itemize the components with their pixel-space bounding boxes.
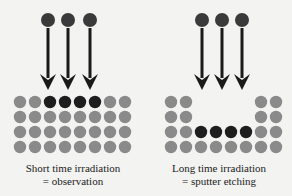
atom-icon bbox=[119, 111, 131, 123]
marked-atom-icon bbox=[240, 126, 252, 138]
atom-icon bbox=[14, 141, 26, 153]
left-atom-lattice bbox=[14, 96, 131, 153]
atom-icon bbox=[240, 141, 252, 153]
atom-icon bbox=[89, 126, 101, 138]
marked-atom-icon bbox=[44, 96, 56, 108]
ion-icon bbox=[61, 13, 75, 27]
ion-icon bbox=[235, 13, 249, 27]
ion-icon bbox=[41, 13, 55, 27]
marked-atom-icon bbox=[210, 126, 222, 138]
atom-icon bbox=[255, 96, 267, 108]
right-caption-line1: Long time irradiation bbox=[146, 162, 292, 175]
atom-icon bbox=[180, 96, 192, 108]
arrow-down-icon bbox=[40, 28, 56, 90]
right-atom-lattice bbox=[165, 96, 282, 153]
atom-icon bbox=[255, 126, 267, 138]
atom-icon bbox=[89, 111, 101, 123]
atom-icon bbox=[270, 141, 282, 153]
atom-icon bbox=[255, 111, 267, 123]
atom-icon bbox=[59, 126, 71, 138]
atom-icon bbox=[225, 141, 237, 153]
atom-icon bbox=[29, 96, 41, 108]
atom-icon bbox=[74, 126, 86, 138]
atom-icon bbox=[210, 141, 222, 153]
atom-icon bbox=[119, 141, 131, 153]
atom-icon bbox=[104, 141, 116, 153]
arrow-down-icon bbox=[234, 28, 250, 90]
atom-icon bbox=[195, 141, 207, 153]
atom-icon bbox=[119, 96, 131, 108]
atom-icon bbox=[180, 126, 192, 138]
atom-icon bbox=[44, 111, 56, 123]
atom-icon bbox=[270, 126, 282, 138]
atom-icon bbox=[29, 111, 41, 123]
atom-icon bbox=[14, 111, 26, 123]
atom-icon bbox=[89, 141, 101, 153]
marked-atom-icon bbox=[74, 96, 86, 108]
atom-icon bbox=[165, 96, 177, 108]
atom-icon bbox=[165, 126, 177, 138]
atom-icon bbox=[29, 126, 41, 138]
right-caption-line2: = sputter etching bbox=[146, 175, 292, 188]
atom-icon bbox=[165, 111, 177, 123]
atom-icon bbox=[119, 126, 131, 138]
left-caption: Short time irradiation = observation bbox=[0, 162, 146, 188]
right-caption: Long time irradiation = sputter etching bbox=[146, 162, 292, 188]
ion-icon bbox=[215, 13, 229, 27]
atom-icon bbox=[74, 141, 86, 153]
atom-icon bbox=[104, 111, 116, 123]
ion-icon bbox=[195, 13, 209, 27]
marked-atom-icon bbox=[195, 126, 207, 138]
atom-icon bbox=[180, 111, 192, 123]
marked-atom-icon bbox=[225, 126, 237, 138]
atom-icon bbox=[104, 126, 116, 138]
atom-icon bbox=[29, 141, 41, 153]
atom-icon bbox=[44, 126, 56, 138]
marked-atom-icon bbox=[59, 96, 71, 108]
atom-icon bbox=[270, 111, 282, 123]
arrow-down-icon bbox=[60, 28, 76, 90]
left-ion-beam bbox=[40, 13, 98, 90]
atom-icon bbox=[165, 141, 177, 153]
atom-icon bbox=[104, 96, 116, 108]
marked-atom-icon bbox=[89, 96, 101, 108]
left-caption-line1: Short time irradiation bbox=[0, 162, 146, 175]
atom-icon bbox=[255, 141, 267, 153]
atom-icon bbox=[14, 96, 26, 108]
right-ion-beam bbox=[194, 13, 250, 90]
atom-icon bbox=[44, 141, 56, 153]
left-caption-line2: = observation bbox=[0, 175, 146, 188]
atom-icon bbox=[180, 141, 192, 153]
atom-icon bbox=[59, 111, 71, 123]
atom-icon bbox=[14, 126, 26, 138]
arrow-down-icon bbox=[214, 28, 230, 90]
atom-icon bbox=[74, 111, 86, 123]
atom-icon bbox=[59, 141, 71, 153]
arrow-down-icon bbox=[194, 28, 210, 90]
ion-icon bbox=[83, 13, 97, 27]
arrow-down-icon bbox=[82, 28, 98, 90]
atom-icon bbox=[270, 96, 282, 108]
